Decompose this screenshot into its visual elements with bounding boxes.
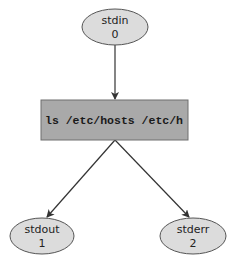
node-stdout: stdout 1: [10, 218, 74, 254]
edge-command-to-stdout: [47, 140, 115, 217]
node-stdin: stdin 0: [82, 9, 148, 45]
stdout-fd: 1: [39, 237, 46, 250]
io-redirection-diagram: stdin 0 ls /etc/hosts /etc/h stdout 1 st…: [0, 0, 233, 257]
node-command: ls /etc/hosts /etc/h: [41, 100, 188, 140]
stderr-fd: 2: [190, 237, 197, 250]
command-text: ls /etc/hosts /etc/h: [45, 114, 183, 127]
stdin-fd: 0: [112, 28, 119, 41]
stdout-name: stdout: [24, 223, 60, 236]
stdin-name: stdin: [101, 14, 128, 27]
node-stderr: stderr 2: [160, 218, 226, 254]
stderr-name: stderr: [177, 223, 210, 236]
edge-command-to-stderr: [115, 140, 189, 217]
